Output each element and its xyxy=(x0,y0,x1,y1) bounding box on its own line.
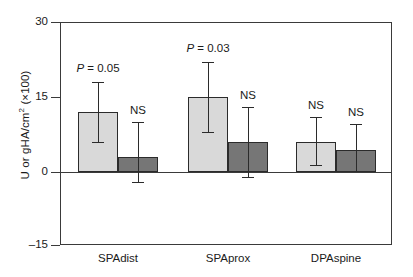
y-axis-title-superscript: 2 xyxy=(17,108,26,113)
error-bar-stem-spadist-light xyxy=(98,82,99,142)
y-tick-mark-30 xyxy=(51,22,60,23)
annotation-spaprox-dark: NS xyxy=(240,89,256,101)
x-axis-label-dpaspine: DPAspine xyxy=(311,252,361,264)
annotation-spadist-light: P = 0.05 xyxy=(76,62,119,74)
annotation-p-value: = 0.03 xyxy=(194,42,230,54)
error-bar-cap-lower-spadist-dark xyxy=(132,182,144,183)
error-bar-cap-lower-spadist-light xyxy=(92,142,104,143)
annotation-p-value: = 0.05 xyxy=(84,62,120,74)
error-bar-cap-lower-spaprox-dark xyxy=(242,177,254,178)
error-bar-cap-lower-dpaspine-light xyxy=(310,165,322,166)
error-bar-cap-upper-spadist-light xyxy=(92,82,104,83)
error-bar-cap-upper-spaprox-dark xyxy=(242,107,254,108)
error-bar-stem-spaprox-dark xyxy=(248,107,249,177)
error-bar-stem-spaprox-light xyxy=(208,62,209,132)
chart-figure: U or gHA/cm2 (×100) 30 15 0 –15 P = 0.05… xyxy=(0,0,413,277)
annotation-p-symbol: P xyxy=(76,62,84,74)
y-axis-title-prefix: U or gHA/cm xyxy=(19,112,31,179)
x-axis-label-spaprox: SPAprox xyxy=(206,252,251,264)
y-tick-label-neg15: –15 xyxy=(29,238,48,250)
error-bar-cap-lower-dpaspine-dark xyxy=(350,171,362,172)
y-axis-title-suffix: (×100) xyxy=(19,70,31,107)
y-tick-mark-neg15 xyxy=(51,245,60,246)
y-tick-label-30: 30 xyxy=(35,15,48,27)
annotation-spadist-dark: NS xyxy=(130,104,146,116)
error-bar-stem-dpaspine-dark xyxy=(356,124,357,171)
error-bar-stem-spadist-dark xyxy=(138,122,139,182)
annotation-dpaspine-light: NS xyxy=(308,99,324,111)
error-bar-cap-lower-spaprox-light xyxy=(202,132,214,133)
zero-baseline xyxy=(60,172,392,173)
y-tick-label-0: 0 xyxy=(42,165,48,177)
error-bar-cap-upper-spaprox-light xyxy=(202,62,214,63)
annotation-p-symbol: P xyxy=(186,42,194,54)
error-bar-cap-upper-spadist-dark xyxy=(132,122,144,123)
error-bar-cap-upper-dpaspine-light xyxy=(310,117,322,118)
annotation-spaprox-light: P = 0.03 xyxy=(186,42,229,54)
error-bar-cap-upper-dpaspine-dark xyxy=(350,124,362,125)
y-tick-mark-0 xyxy=(51,172,60,173)
error-bar-stem-dpaspine-light xyxy=(316,117,317,165)
y-tick-label-15: 15 xyxy=(35,90,48,102)
annotation-dpaspine-dark: NS xyxy=(348,106,364,118)
y-tick-mark-15 xyxy=(51,97,60,98)
x-axis-label-spadist: SPAdist xyxy=(98,252,138,264)
y-axis-title: U or gHA/cm2 (×100) xyxy=(17,35,31,215)
